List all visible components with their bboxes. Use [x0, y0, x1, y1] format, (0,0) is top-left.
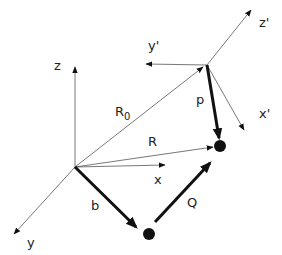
vector-label-R: R: [148, 134, 157, 149]
vector-Q: [155, 163, 210, 222]
axis-z_prime: [207, 10, 251, 65]
axis-label-x: x: [154, 172, 162, 187]
vector-b: [75, 167, 136, 227]
axis-label-y_prime: y': [148, 38, 159, 53]
particle-upper: [214, 140, 226, 152]
axis-label-z: z: [54, 58, 61, 73]
lab-frame-axes: [14, 67, 165, 234]
labels: zxyz'y'x'R0RpbQ: [27, 15, 270, 250]
axis-label-z_prime: z': [259, 15, 269, 30]
axis-label-x_prime: x': [259, 106, 270, 121]
vector-R: [75, 147, 213, 167]
diagram-canvas: zxyz'y'x'R0RpbQ: [0, 0, 282, 255]
axis-y: [14, 167, 75, 234]
coordinate-frames-diagram: zxyz'y'x'R0RpbQ: [0, 0, 282, 255]
primed-frame-axes: [146, 10, 251, 130]
vector-label-Q: Q: [187, 195, 197, 210]
axis-y_prime: [146, 64, 207, 65]
particle-lower: [143, 228, 155, 240]
axis-label-y: y: [27, 235, 35, 250]
vector-label-R0: R0: [115, 104, 130, 122]
vector-label-b: b: [91, 198, 99, 213]
vector-label-p: p: [196, 92, 204, 107]
vector-R0: [75, 67, 203, 167]
